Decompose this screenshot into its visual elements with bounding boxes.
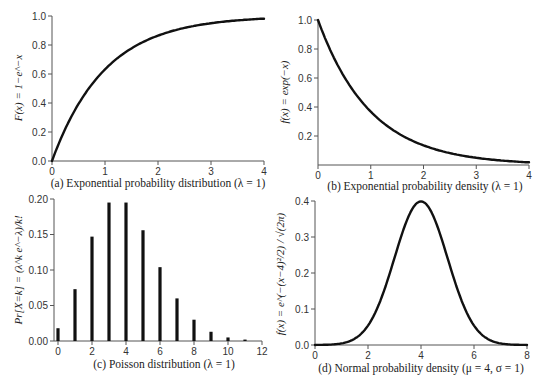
y-tick-label: 0.05 bbox=[29, 300, 49, 311]
y-tick-label: 0.2 bbox=[32, 127, 46, 138]
panel-a-curve bbox=[52, 19, 264, 161]
panel-a-axes bbox=[52, 16, 264, 161]
poisson-bar bbox=[107, 203, 110, 341]
y-tick-label: 0.8 bbox=[32, 40, 46, 51]
y-tick-label: 0.4 bbox=[295, 196, 309, 207]
poisson-bar bbox=[158, 267, 161, 341]
x-tick-label: 8 bbox=[191, 346, 197, 357]
panel-d-curve bbox=[315, 201, 527, 345]
x-tick-label: 6 bbox=[157, 346, 163, 357]
panel-b-exponential-pdf: 0.20.40.60.81.0 01234 f(x) = exp(−x) (b)… bbox=[278, 15, 532, 194]
y-tick-label: 0.20 bbox=[29, 194, 49, 205]
poisson-bar bbox=[192, 320, 195, 341]
x-tick-label: 0 bbox=[55, 346, 61, 357]
y-tick-label: 0.8 bbox=[298, 44, 312, 55]
y-tick-label: 0.15 bbox=[29, 229, 49, 240]
panel-d-ylabel: f(x) = e^(−(x−4)²/2) / √(2π) bbox=[274, 212, 287, 335]
poisson-bar bbox=[243, 340, 246, 341]
panel-a-ylabel: F(x) = 1−e^−x bbox=[12, 55, 25, 123]
x-tick-label: 4 bbox=[526, 170, 532, 181]
panel-c-x-ticks: 024681012 bbox=[55, 341, 268, 357]
y-tick-label: 0.2 bbox=[295, 268, 309, 279]
panel-a-x-ticks: 01234 bbox=[49, 161, 267, 177]
panel-c-y-ticks: 0.000.050.100.150.20 bbox=[29, 194, 54, 347]
x-tick-label: 2 bbox=[155, 166, 161, 177]
panel-a-exponential-cdf: 0.00.20.40.60.81.0 01234 F(x) = 1−e^−x (… bbox=[12, 11, 267, 191]
panel-c-axes bbox=[54, 199, 262, 341]
y-tick-label: 0.10 bbox=[29, 265, 49, 276]
panel-d-axes bbox=[315, 201, 527, 345]
panel-c-poisson: 0.000.050.100.150.20 024681012 Pr[X=k] =… bbox=[12, 194, 268, 372]
panel-d-y-ticks: 0.00.10.20.30.4 bbox=[295, 196, 315, 351]
poisson-bar bbox=[90, 237, 93, 341]
poisson-bar bbox=[56, 328, 59, 341]
panel-c-bars bbox=[56, 203, 246, 341]
panel-b-ylabel: f(x) = exp(−x) bbox=[278, 60, 291, 123]
x-tick-label: 4 bbox=[123, 346, 129, 357]
panel-a-caption: (a) Exponential probability distribution… bbox=[51, 177, 266, 190]
y-tick-label: 0.6 bbox=[32, 69, 46, 80]
x-tick-label: 0 bbox=[315, 170, 321, 181]
panel-b-axes bbox=[318, 20, 529, 165]
x-tick-label: 0 bbox=[49, 166, 55, 177]
panel-d-x-ticks: 02468 bbox=[312, 345, 530, 361]
y-tick-label: 0.6 bbox=[298, 73, 312, 84]
x-tick-label: 8 bbox=[524, 350, 530, 361]
y-tick-label: 0.4 bbox=[298, 102, 312, 113]
x-tick-label: 4 bbox=[261, 166, 267, 177]
y-tick-label: 1.0 bbox=[298, 15, 312, 26]
x-tick-label: 3 bbox=[208, 166, 214, 177]
x-tick-label: 1 bbox=[102, 166, 108, 177]
x-tick-label: 2 bbox=[89, 346, 95, 357]
y-tick-label: 0.1 bbox=[295, 304, 309, 315]
panel-b-caption: (b) Exponential probability density (λ =… bbox=[327, 180, 523, 193]
y-tick-label: 0.4 bbox=[32, 98, 46, 109]
poisson-bar bbox=[209, 332, 212, 341]
panel-c-caption: (c) Poisson distribution (λ = 1) bbox=[93, 358, 235, 371]
x-tick-label: 4 bbox=[418, 350, 424, 361]
panel-d-caption: (d) Normal probability density (μ = 4, σ… bbox=[318, 362, 524, 375]
y-tick-label: 0.2 bbox=[298, 131, 312, 142]
x-tick-label: 2 bbox=[365, 350, 371, 361]
poisson-bar bbox=[73, 289, 76, 341]
y-tick-label: 1.0 bbox=[32, 11, 46, 22]
y-tick-label: 0.00 bbox=[29, 336, 49, 347]
panel-a-y-ticks: 0.00.20.40.60.81.0 bbox=[32, 11, 52, 167]
y-tick-label: 0.3 bbox=[295, 232, 309, 243]
panel-b-curve bbox=[318, 20, 529, 162]
figure-canvas: 0.00.20.40.60.81.0 01234 F(x) = 1−e^−x (… bbox=[0, 0, 547, 388]
panel-b-y-ticks: 0.20.40.60.81.0 bbox=[298, 15, 318, 142]
x-tick-label: 0 bbox=[312, 350, 318, 361]
panel-b-x-ticks: 01234 bbox=[315, 165, 532, 181]
poisson-bar bbox=[226, 337, 229, 341]
x-tick-label: 6 bbox=[471, 350, 477, 361]
y-tick-label: 0.0 bbox=[295, 340, 309, 351]
panel-d-normal-pdf: 0.00.10.20.30.4 02468 f(x) = e^(−(x−4)²/… bbox=[274, 196, 530, 376]
y-tick-label: 0.0 bbox=[32, 156, 46, 167]
x-tick-label: 10 bbox=[222, 346, 234, 357]
poisson-bar bbox=[175, 298, 178, 341]
panel-c-ylabel: Pr[X=k] = (λ^k e^−λ)/k! bbox=[12, 215, 25, 326]
poisson-bar bbox=[141, 230, 144, 341]
poisson-bar bbox=[124, 203, 127, 341]
x-tick-label: 12 bbox=[256, 346, 268, 357]
